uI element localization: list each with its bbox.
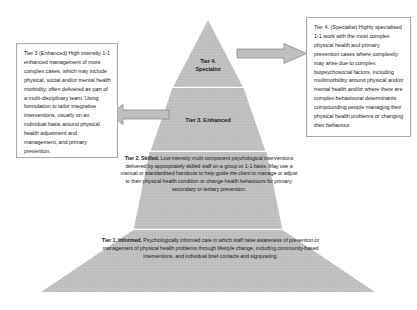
- tier-3-callout-box: Tier 3 (Enhanced) High intensity 1-1 enh…: [16, 43, 118, 158]
- tier-2-heading: Tier 2. Skilled.: [125, 155, 160, 161]
- pyramid-tier-4-apex: [173, 20, 243, 87]
- tier-4-callout-box: Tier 4. (Specialist) Highly specialised …: [306, 17, 411, 137]
- diagram-canvas: Tier 4. Specialist Tier 3. Enhanced Tier…: [0, 0, 417, 310]
- tier-1-block: Tier 1. Informed. Psychologically inform…: [88, 237, 333, 260]
- tier-1-heading: Tier 1. Informed.: [102, 237, 142, 243]
- tier-4-label-line2: Specialist: [168, 65, 248, 73]
- tier-3-callout-text: Tier 3 (Enhanced) High intensity 1-1 enh…: [24, 50, 111, 154]
- tier-4-callout-text: Tier 4. (Specialist) Highly specialised …: [314, 24, 403, 128]
- arrow-to-tier-4-callout-icon: [236, 42, 308, 66]
- tier-2-block: Tier 2. Skilled. Low intensity multi-com…: [120, 155, 298, 193]
